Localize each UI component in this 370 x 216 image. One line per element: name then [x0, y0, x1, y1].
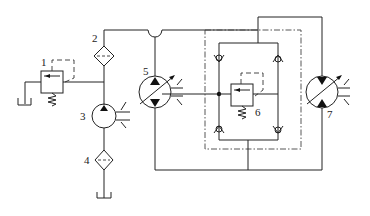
variable-pump-5: 5	[139, 37, 183, 108]
bridge-block-6: 6	[205, 17, 301, 170]
hydraulic-diagram: 1 2 3 4 5	[0, 0, 370, 216]
label-3: 3	[80, 110, 86, 122]
label-7: 7	[327, 108, 333, 120]
charge-pump-3: 3	[80, 102, 130, 128]
label-1: 1	[41, 56, 47, 68]
label-2: 2	[92, 32, 98, 44]
label-6: 6	[255, 106, 261, 118]
label-4: 4	[84, 154, 90, 166]
label-5: 5	[143, 65, 149, 77]
filter-4: 4	[84, 150, 113, 170]
filter-2: 2	[92, 32, 114, 66]
relief-valve-1: 1	[18, 56, 74, 106]
